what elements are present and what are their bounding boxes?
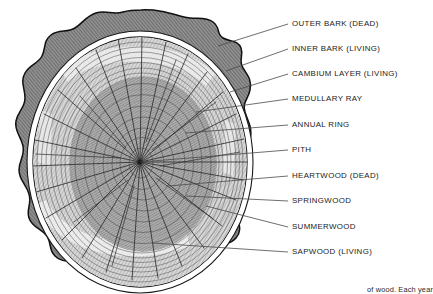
label-pith: PITH (292, 145, 311, 154)
label-medullary-ray: MEDULLARY RAY (292, 94, 363, 103)
label-cambium-layer: CAMBIUM LAYER (LIVING) (292, 69, 398, 78)
caption-text: of wood. Each year (367, 285, 433, 294)
tree-ring-diagram: OUTER BARK (DEAD) INNER BARK (LIVING) CA… (0, 0, 433, 294)
label-inner-bark: INNER BARK (LIVING) (292, 44, 380, 53)
figure-caption: of wood. Each year (367, 285, 433, 294)
label-heartwood: HEARTWOOD (DEAD) (292, 171, 379, 180)
label-sapwood: SAPWOOD (LIVING) (292, 247, 372, 256)
label-springwood: SPRINGWOOD (292, 196, 351, 205)
label-group: OUTER BARK (DEAD) INNER BARK (LIVING) CA… (292, 19, 398, 256)
label-summerwood: SUMMERWOOD (292, 222, 356, 231)
label-outer-bark: OUTER BARK (DEAD) (292, 19, 379, 28)
label-annual-ring: ANNUAL RING (292, 120, 350, 129)
leader-line-outer-bark (218, 24, 288, 46)
cross-section-figure: OUTER BARK (DEAD) INNER BARK (LIVING) CA… (0, 0, 433, 294)
